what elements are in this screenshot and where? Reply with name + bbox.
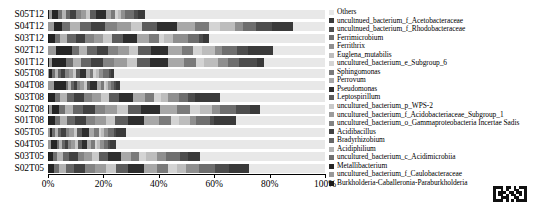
bar-segment xyxy=(177,164,187,173)
legend-swatch-icon xyxy=(329,172,334,177)
bar-segment xyxy=(108,152,120,161)
bar-segment xyxy=(84,93,92,102)
bar-segment xyxy=(63,152,70,161)
x-tick-0 xyxy=(48,174,49,178)
bar-segment xyxy=(220,22,235,31)
bar-segment xyxy=(128,105,141,114)
bar-segment xyxy=(184,58,196,67)
bar-segment xyxy=(160,105,177,114)
bar-segment xyxy=(52,105,59,114)
bar-segment xyxy=(128,164,143,173)
bar-segment xyxy=(138,10,145,19)
legend-swatch-icon xyxy=(329,53,334,58)
y-axis-label-s05t08: S05T08 xyxy=(15,69,45,78)
y-axis-label-s02t05: S02T05 xyxy=(15,164,45,173)
bar-segment xyxy=(109,93,120,102)
bar-segment xyxy=(117,22,131,31)
bar-segment xyxy=(127,58,137,67)
bar-segment xyxy=(70,22,80,31)
bar-segment xyxy=(196,116,210,125)
bar-segment xyxy=(117,105,128,114)
bar-row-s05t08 xyxy=(48,69,325,78)
bar-segment xyxy=(48,46,56,55)
y-axis-label-s03t12: S03T12 xyxy=(15,34,45,43)
bar-segment xyxy=(115,116,127,125)
bar-segment xyxy=(168,58,183,67)
bar-segment xyxy=(180,152,188,161)
y-axis-label-s03t05: S03T05 xyxy=(15,152,45,161)
bar-segment xyxy=(106,116,115,125)
bar-row-s03t12 xyxy=(48,34,325,43)
bar-segment xyxy=(150,58,168,67)
plot-area xyxy=(48,9,325,174)
bar-segment xyxy=(106,164,116,173)
bar-segment xyxy=(159,116,171,125)
legend-swatch-icon xyxy=(329,70,334,75)
x-tick-label-60: 60% xyxy=(205,179,222,190)
bar-segment xyxy=(92,93,101,102)
bar-segment xyxy=(214,116,236,125)
bar-segment xyxy=(118,46,129,55)
bar-row-s02t05 xyxy=(48,164,325,173)
bar-row-s04t05 xyxy=(48,140,325,149)
bar-segment xyxy=(95,105,106,114)
bar-segment xyxy=(101,93,109,102)
bar-segment xyxy=(146,152,157,161)
bar-segment xyxy=(157,152,166,161)
bar-segment xyxy=(195,93,220,102)
bar-segment xyxy=(123,34,137,43)
bar-segment xyxy=(168,164,176,173)
bar-row-s04t12 xyxy=(48,22,325,31)
legend-swatch-icon xyxy=(329,78,334,83)
bar-segment xyxy=(92,152,99,161)
bar-segment xyxy=(202,46,215,55)
bar-segment xyxy=(66,164,74,173)
legend-swatch-icon xyxy=(329,129,334,134)
bar-segment xyxy=(220,93,325,102)
bar-segment xyxy=(154,93,161,102)
bar-segment xyxy=(96,10,106,19)
bar-segment xyxy=(293,22,325,31)
legend-swatch-icon xyxy=(329,155,334,160)
x-tick-label-80: 80% xyxy=(261,179,278,190)
bar-segment xyxy=(116,164,128,173)
bar-segment xyxy=(56,46,71,55)
x-tick-label-0: 0% xyxy=(42,179,55,190)
y-axis-label-s03t08: S03T08 xyxy=(15,93,45,102)
legend: Othersuncultnued_bacterium_f_Acetobacter… xyxy=(329,8,537,187)
bar-segment xyxy=(220,105,236,114)
bar-segment xyxy=(80,22,91,31)
bar-segment xyxy=(66,58,73,67)
bar-segment xyxy=(200,152,325,161)
bar-segment xyxy=(105,105,117,114)
bar-segment xyxy=(81,58,91,67)
bar-segment xyxy=(256,22,273,31)
x-tick-100 xyxy=(325,174,326,178)
bar-segment xyxy=(209,22,220,31)
qr-code-watermark xyxy=(487,185,533,202)
legend-swatch-icon xyxy=(329,104,334,109)
bar-segment xyxy=(128,116,144,125)
x-tick-label-20: 20% xyxy=(95,179,112,190)
y-axis-label-s02t12: S02T12 xyxy=(15,46,45,55)
bar-segment xyxy=(59,164,66,173)
bar-segment xyxy=(84,152,92,161)
bar-segment xyxy=(195,22,209,31)
bar-segment xyxy=(126,128,325,137)
legend-swatch-icon xyxy=(329,147,334,152)
bar-segment xyxy=(129,46,139,55)
bar-row-s05t12 xyxy=(48,10,325,19)
bar-segment xyxy=(73,105,82,114)
bar-segment xyxy=(95,164,106,173)
bar-segment xyxy=(151,46,168,55)
x-axis-line xyxy=(48,174,325,175)
legend-swatch-icon xyxy=(329,61,334,66)
bar-segment xyxy=(94,34,104,43)
bar-segment xyxy=(99,152,108,161)
legend-swatch-icon xyxy=(329,112,334,117)
bar-segment xyxy=(116,128,126,137)
bar-segment xyxy=(222,46,237,55)
bar-segment xyxy=(79,46,87,55)
y-axis-label-s04t12: S04T12 xyxy=(15,22,45,31)
y-axis-label-s01t12: S01T12 xyxy=(15,58,45,67)
